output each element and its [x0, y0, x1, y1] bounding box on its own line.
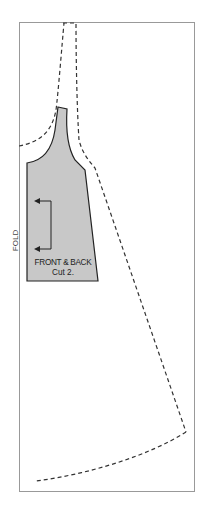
piece-instruction: Cut 2.	[27, 268, 99, 277]
pattern-canvas	[0, 0, 203, 511]
fold-label: FOLD	[11, 226, 20, 256]
piece-title: FRONT & BACK	[27, 258, 99, 267]
front-back-pattern-piece	[27, 107, 98, 281]
outer-hem-cutline	[36, 432, 186, 481]
